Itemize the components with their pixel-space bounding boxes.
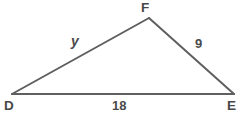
side-length-label-DE: 18 (112, 99, 126, 112)
vertex-label-F: F (141, 1, 149, 14)
geometry-figure: F D E y 9 18 (0, 0, 244, 119)
triangle-side-FE (149, 18, 234, 94)
vertex-label-D: D (4, 99, 14, 112)
vertex-label-E: E (227, 99, 236, 112)
triangle-side-DF (12, 18, 149, 94)
side-length-label-DF: y (71, 35, 79, 48)
side-length-label-FE: 9 (195, 37, 202, 50)
